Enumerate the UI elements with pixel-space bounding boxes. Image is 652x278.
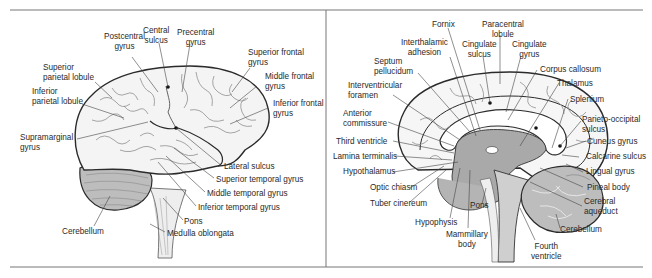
label-interthalamic-adhesion: Interthalamic adhesion (401, 38, 448, 57)
label-third-ventricle: Third ventricle (336, 137, 387, 147)
label-hypophysis: Hypophysis (415, 218, 457, 228)
label-cingulate-sulcus: Cingulate sulcus (462, 40, 497, 59)
label-lateral-sulcus: Lateral sulcus (224, 162, 275, 172)
label-superior-temporal-gyrus: Superior temporal gyrus (216, 175, 303, 185)
label-thalamus: Thalamus (557, 79, 593, 89)
label-cuneus-gyrus: Cuneus gyrus (587, 137, 638, 147)
label-splenium: Splenium (570, 95, 604, 105)
brain-anatomy-figure: Postcentral gyrus Central sulcus Precent… (0, 0, 652, 278)
label-cerebellum-midsagittal: Cerebellum (560, 225, 602, 235)
label-lamina-terminalis: Lamina terminalis (333, 152, 397, 162)
label-interventricular-foramen: Interventricular foramen (348, 81, 402, 100)
label-superior-parietal-lobule: Superior parietal lobule (43, 63, 94, 82)
label-cingulate-gyrus: Cingulate gyrus (512, 40, 547, 59)
label-cerebellum-lateral: Cerebellum (62, 227, 104, 237)
label-calcarine-sulcus: Calcarine sulcus (586, 152, 646, 162)
label-paracentral-lobule: Paracentral lobule (482, 20, 524, 39)
label-precentral-gyrus: Precentral gyrus (177, 28, 214, 47)
label-postcentral-gyrus: Postcentral gyrus (104, 32, 145, 51)
label-central-sulcus: Central sulcus (143, 26, 169, 45)
label-cerebral-aqueduct: Cerebral aqueduct (584, 197, 618, 216)
label-inferior-parietal-lobule: Inferior parietal lobule (32, 87, 83, 106)
label-septum-pellucidum: Septum pellucidum (374, 57, 413, 76)
label-medulla-oblongata: Medulla oblongata (167, 229, 234, 239)
label-middle-temporal-gyrus: Middle temporal gyrus (207, 189, 288, 199)
label-superior-frontal-gyrus: Superior frontal gyrus (248, 48, 304, 67)
label-pons-lateral: Pons (184, 217, 203, 227)
label-inferior-temporal-gyrus: Inferior temporal gyrus (198, 203, 280, 213)
label-supramarginal-gyrus: Supramarginal gyrus (20, 133, 73, 152)
label-anterior-commissure: Anterior commissure (343, 109, 387, 128)
label-pineal-body: Pineal body (587, 183, 630, 193)
label-hypothalamus: Hypothalamus (343, 167, 395, 177)
label-fornix: Fornix (432, 20, 455, 30)
label-optic-chiasm: Optic chiasm (370, 183, 417, 193)
label-corpus-callosum: Corpus callosum (540, 65, 601, 75)
label-middle-frontal-gyrus: Middle frontal gyrus (265, 72, 314, 91)
label-mammillary-body: Mammillary body (446, 230, 488, 249)
label-parieto-occipital-sulcus: Parieto-occipital sulcus (582, 115, 640, 134)
label-lingual-gyrus: Lingual gyrus (586, 167, 635, 177)
label-pons-midsagittal: Pons (470, 201, 489, 211)
label-inferior-frontal-gyrus: Inferior frontal gyrus (273, 99, 324, 118)
label-tuber-cinereum: Tuber cinereum (370, 199, 427, 209)
label-fourth-ventricle: Fourth ventricle (531, 242, 562, 261)
